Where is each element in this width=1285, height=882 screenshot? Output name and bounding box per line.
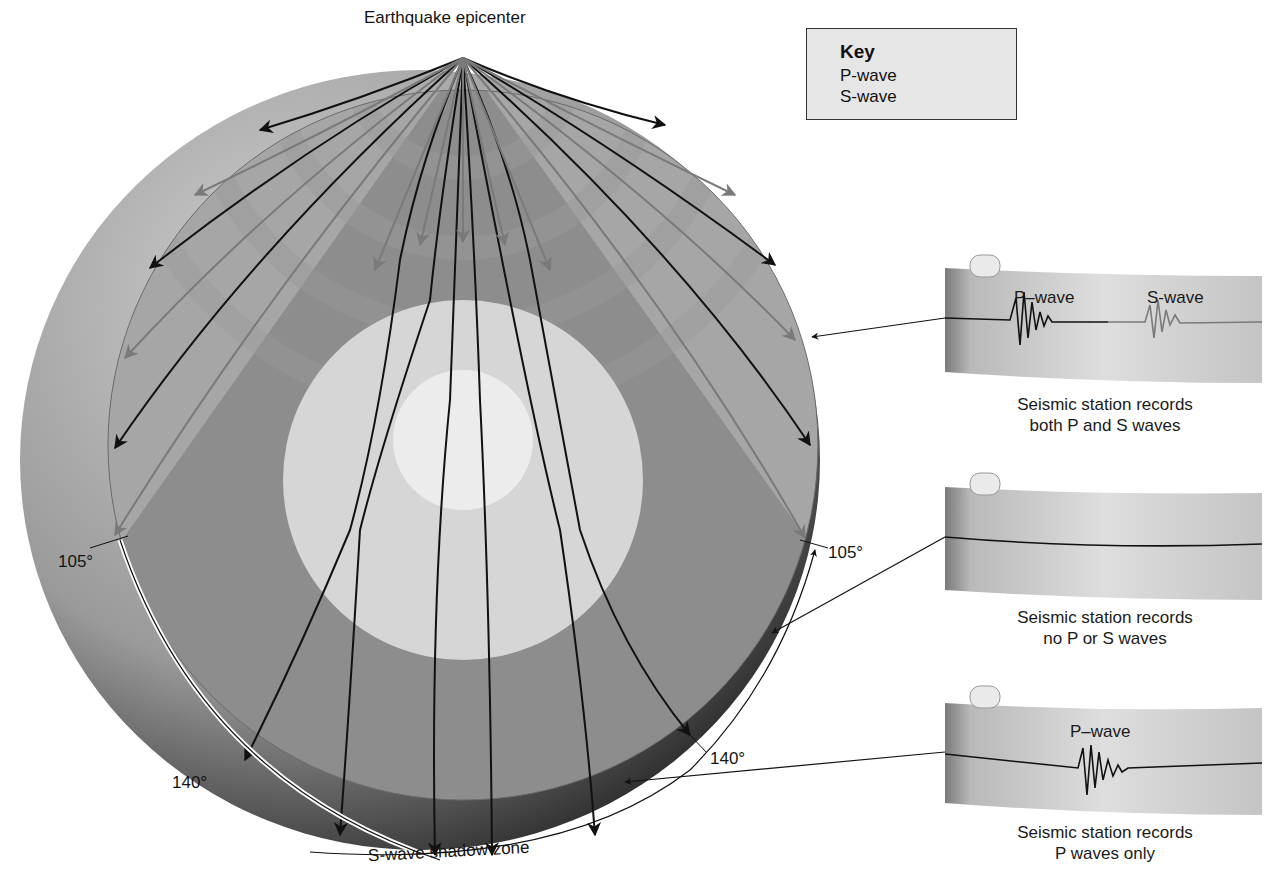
station-1-caption-line1: Seismic station records bbox=[960, 394, 1250, 415]
station-2-caption-line1: Seismic station records bbox=[960, 607, 1250, 628]
station-1-caption: Seismic station records both P and S wav… bbox=[960, 394, 1250, 436]
angle-right-105: 105° bbox=[828, 543, 863, 563]
key-s-wave-label: S-wave bbox=[840, 87, 897, 107]
earth-cross-section-diagram bbox=[0, 0, 1285, 882]
key-title: Key bbox=[840, 41, 875, 63]
angle-left-140: 140° bbox=[172, 773, 207, 793]
legend-key: Key P-wave S-wave bbox=[806, 28, 1017, 120]
station-2-caption: Seismic station records no P or S waves bbox=[960, 607, 1250, 649]
station-3-caption-line2: P waves only bbox=[960, 843, 1250, 864]
epicenter-label: Earthquake epicenter bbox=[364, 8, 526, 28]
station-3-p-wave-label: P–wave bbox=[1070, 722, 1130, 742]
station-1-p-wave-label: P–wave bbox=[1014, 288, 1074, 308]
seismograph-1 bbox=[945, 255, 1262, 383]
station-3-caption-line1: Seismic station records bbox=[960, 822, 1250, 843]
inner-core bbox=[393, 370, 533, 510]
angle-left-105: 105° bbox=[58, 552, 93, 572]
station-1-caption-line2: both P and S waves bbox=[960, 415, 1250, 436]
station-2-caption-line2: no P or S waves bbox=[960, 628, 1250, 649]
seismograph-3 bbox=[945, 686, 1262, 815]
seismograph-2 bbox=[945, 473, 1262, 600]
station-1-s-wave-label: S-wave bbox=[1147, 288, 1204, 308]
station-3-caption: Seismic station records P waves only bbox=[960, 822, 1250, 864]
key-p-wave-label: P-wave bbox=[840, 66, 897, 86]
angle-right-140: 140° bbox=[710, 749, 745, 769]
